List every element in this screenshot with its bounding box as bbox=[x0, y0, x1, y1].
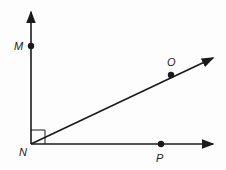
diagram-canvas bbox=[0, 0, 226, 170]
label-p: P bbox=[156, 153, 163, 164]
point-o bbox=[168, 72, 174, 78]
point-m bbox=[28, 43, 34, 49]
ray-no bbox=[31, 58, 213, 144]
angle-diagram: M O P N bbox=[0, 0, 226, 170]
label-o: O bbox=[167, 57, 176, 68]
point-p bbox=[158, 141, 164, 147]
right-angle-mark bbox=[31, 130, 45, 144]
label-m: M bbox=[14, 41, 23, 52]
label-n: N bbox=[19, 147, 27, 158]
